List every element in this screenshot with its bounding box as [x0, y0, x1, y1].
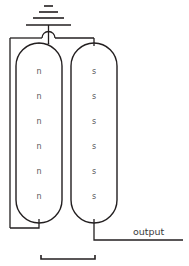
carrier-label: n — [36, 192, 41, 201]
left-carrier-labels: n n n n n n — [36, 67, 41, 201]
carrier-label: s — [92, 167, 96, 176]
scale-bar — [41, 255, 95, 259]
carrier-label: n — [36, 117, 41, 126]
carrier-label: s — [92, 192, 96, 201]
right-carrier-labels: s s s s s s — [92, 67, 96, 201]
carrier-label: s — [92, 92, 96, 101]
carrier-label: s — [92, 117, 96, 126]
output-label: output — [133, 226, 165, 237]
carrier-label: s — [92, 142, 96, 151]
carrier-label: s — [92, 67, 96, 76]
carrier-label: n — [36, 167, 41, 176]
carrier-label: n — [36, 67, 41, 76]
carrier-label: n — [36, 92, 41, 101]
carrier-label: n — [36, 142, 41, 151]
top-bus-wire — [10, 32, 94, 228]
circuit-diagram-canvas: n n n n n n s s s s s s output — [0, 0, 189, 266]
left-return-wire — [10, 219, 39, 228]
circuit-svg: n n n n n n s s s s s s output — [0, 0, 189, 266]
